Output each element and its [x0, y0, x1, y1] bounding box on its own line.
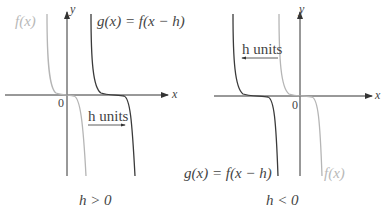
right-g-label: g(x) = f(x − h) — [184, 165, 272, 182]
left-origin-label: 0 — [58, 96, 64, 111]
right-shift-label: h units — [242, 41, 282, 58]
right-x-axis-label: x — [375, 88, 380, 103]
left-y-axis-label: y — [70, 2, 75, 17]
right-caption: h < 0 — [266, 192, 299, 209]
left-g-label: g(x) = f(x − h) — [97, 13, 185, 30]
right-y-axis-label: y — [299, 2, 304, 17]
left-caption: h > 0 — [79, 192, 112, 209]
left-shift-label: h units — [88, 108, 128, 125]
left-x-axis-label: x — [172, 87, 177, 102]
right-f-label: f(x) — [324, 165, 345, 182]
left-f-label: f(x) — [15, 13, 36, 30]
right-g-curve — [233, 14, 278, 176]
right-origin-label: 0 — [292, 98, 298, 113]
